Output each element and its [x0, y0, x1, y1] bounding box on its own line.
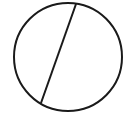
chord-line — [41, 4, 76, 103]
circle-with-chord-diagram — [0, 0, 124, 123]
circle — [14, 3, 122, 111]
